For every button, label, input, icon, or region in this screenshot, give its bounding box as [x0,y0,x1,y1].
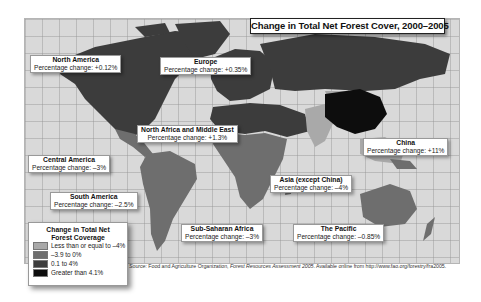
north-america-land [60,31,205,137]
legend-swatch-medium [33,251,48,259]
region-label-china: China Percentage change: +11% [363,138,448,156]
legend-item: 0.1 to 4% [33,259,127,268]
map-title: Change in Total Net Forest Cover, 2000–2… [250,18,445,34]
russia-land [260,34,450,91]
region-name: The Pacific [297,225,380,233]
australia-land [360,184,417,227]
map-legend: Change in Total Net Forest Coverage Less… [28,222,128,286]
legend-item: Less than or equal to –4% [33,241,127,250]
region-label-central-america: Central America Percentage change: –3% [28,155,110,173]
region-name: Sub-Saharan Africa [185,225,259,233]
region-change: Percentage change: +11% [367,147,444,155]
legend-swatch-light [33,242,48,250]
region-change: Percentage change: +0.35% [164,66,247,74]
region-change: Percentage change: –3% [32,164,106,172]
region-label-europe: Europe Percentage change: +0.35% [160,57,251,75]
legend-item: Greater than 4.1% [33,268,127,277]
region-label-the-pacific: The Pacific Percentage change: –0.85% [293,224,384,242]
region-change: Percentage change: –3% [185,233,259,241]
legend-item: –3.9 to 0% [33,250,127,259]
legend-swatch-dark [33,260,48,268]
region-label-south-america: South America Percentage change: –2.5% [50,192,138,210]
region-label-north-africa-middle-east: North Africa and Middle East Percentage … [137,125,238,143]
region-label-north-america: North America Percentage change: +0.12% [30,55,121,73]
region-change: Percentage change: +1.3% [141,134,234,142]
region-name: North America [34,56,117,64]
region-change: Percentage change: –4% [274,184,348,192]
legend-title: Change in Total Net Forest Coverage [29,226,127,241]
region-name: Central America [32,156,106,164]
china-land [325,89,387,134]
region-name: North Africa and Middle East [141,126,234,134]
region-change: Percentage change: –2.5% [54,201,134,209]
region-name: Asia (except China) [274,176,348,184]
region-name: Europe [164,58,247,66]
region-name: China [367,139,444,147]
region-name: South America [54,193,134,201]
source-citation: Source: Food and Agriculture Organizatio… [129,263,446,269]
region-change: Percentage change: +0.12% [34,64,117,72]
sub-saharan-africa-land [213,132,287,209]
region-label-asia: Asia (except China) Percentage change: –… [270,175,352,193]
region-change: Percentage change: –0.85% [297,233,380,241]
region-label-sub-saharan-africa: Sub-Saharan Africa Percentage change: –3… [181,224,263,242]
legend-swatch-black [33,269,48,277]
